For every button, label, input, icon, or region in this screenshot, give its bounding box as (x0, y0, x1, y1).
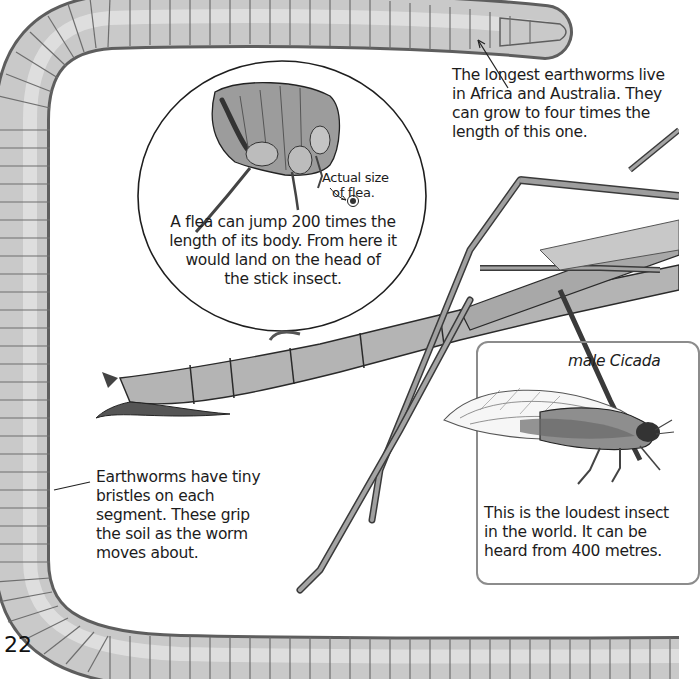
longest-earthworms-caption: The longest earthworms live in Africa an… (452, 66, 682, 142)
caption-line: A flea can jump 200 times the (140, 213, 426, 232)
caption-line: in Africa and Australia. They (452, 85, 682, 104)
caption-line: can grow to four times the (452, 104, 682, 123)
caption-line: bristles on each (96, 487, 296, 506)
page-number: 22 (4, 632, 32, 657)
earthworm-bristles-caption: Earthworms have tiny bristles on each se… (96, 468, 296, 563)
caption-line: segment. These grip (96, 506, 296, 525)
caption-line: would land on the head of (140, 251, 426, 270)
caption-line: in the world. It can be (484, 523, 684, 542)
cicada-caption: This is the loudest insect in the world.… (484, 504, 684, 561)
caption-line: length of this one. (452, 123, 682, 142)
caption-line: moves about. (96, 544, 296, 563)
caption-line: Earthworms have tiny (96, 468, 296, 487)
caption-line: This is the loudest insect (484, 504, 684, 523)
cicada-illustration (444, 388, 674, 484)
caption-line: the stick insect. (140, 270, 426, 289)
cicada-title: male Cicada (568, 352, 678, 371)
caption-line: heard from 400 metres. (484, 542, 684, 561)
caption-line: of flea. (322, 185, 402, 200)
caption-line: The longest earthworms live (452, 66, 682, 85)
caption-line: the soil as the worm (96, 525, 296, 544)
caption-line: length of its body. From here it (140, 232, 426, 251)
caption-line: Actual size (322, 170, 402, 185)
flea-actual-size-caption: Actual size of flea. (322, 170, 402, 200)
flea-caption: A flea can jump 200 times the length of … (140, 213, 426, 289)
